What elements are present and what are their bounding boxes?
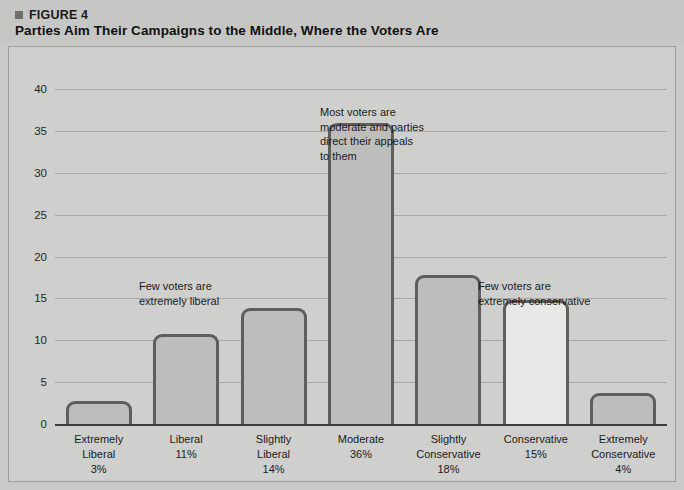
square-bullet-icon	[15, 11, 23, 19]
x-axis-label-liberal: Liberal 11%	[142, 432, 229, 462]
y-axis-tick-label-20: 20	[17, 251, 47, 263]
gridline-40	[55, 89, 667, 90]
figure-header: FIGURE 4 Parties Aim Their Campaigns to …	[0, 0, 684, 42]
y-axis-tick-label-15: 15	[17, 292, 47, 304]
chart-panel: 0510152025303540 Extremely Liberal 3%Lib…	[8, 46, 676, 482]
bar-slightly-conservative	[415, 275, 481, 424]
figure-title: Parties Aim Their Campaigns to the Middl…	[15, 23, 439, 38]
x-axis-label-extremely-conservative: Extremely Conservative 4%	[580, 432, 667, 477]
y-axis-tick-label-40: 40	[17, 83, 47, 95]
y-axis-tick-label-10: 10	[17, 334, 47, 346]
x-axis-label-slightly-liberal: Slightly Liberal 14%	[230, 432, 317, 477]
figure-number-label: FIGURE 4	[29, 8, 88, 22]
annotation-few-liberal: Few voters are extremely liberal	[139, 279, 219, 308]
x-axis-label-conservative: Conservative 15%	[492, 432, 579, 462]
x-axis-label-moderate: Moderate 36%	[317, 432, 404, 462]
bar-conservative	[503, 300, 569, 424]
bar-extremely-liberal	[66, 401, 132, 424]
y-axis-tick-label-30: 30	[17, 167, 47, 179]
bar-slightly-liberal	[241, 308, 307, 424]
bar-liberal	[153, 334, 219, 424]
x-axis-label-extremely-liberal: Extremely Liberal 3%	[55, 432, 142, 477]
bar-extremely-conservative	[590, 393, 656, 424]
annotation-most-moderate: Most voters are moderate and parties dir…	[320, 105, 424, 163]
plot-area: 0510152025303540 Extremely Liberal 3%Lib…	[9, 47, 677, 483]
figure-label-row: FIGURE 4	[15, 8, 88, 22]
y-axis-tick-label-35: 35	[17, 125, 47, 137]
y-axis-tick-label-5: 5	[17, 376, 47, 388]
x-axis-line	[55, 424, 667, 426]
annotation-few-conservative: Few voters are extremely conservative	[478, 279, 591, 308]
figure-root: FIGURE 4 Parties Aim Their Campaigns to …	[0, 0, 684, 490]
x-axis-label-slightly-conservative: Slightly Conservative 18%	[405, 432, 492, 477]
bar-moderate	[328, 123, 394, 425]
y-axis-tick-label-0: 0	[17, 418, 47, 430]
y-axis-tick-label-25: 25	[17, 209, 47, 221]
